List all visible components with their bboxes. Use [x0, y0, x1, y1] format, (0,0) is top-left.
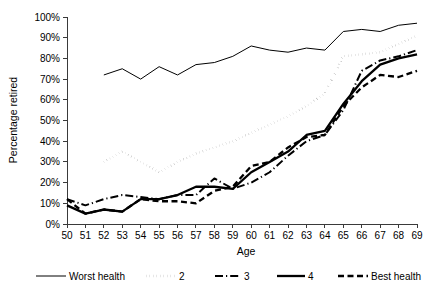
retirement-by-health-line-chart: 0%10%20%30%40%50%60%70%80%90%100% 505152…: [0, 0, 429, 296]
x-tick-label: 52: [98, 230, 110, 241]
legend-label-best-health: Best health: [371, 271, 421, 282]
x-tick-label: 62: [282, 230, 294, 241]
chart-canvas: 0%10%20%30%40%50%60%70%80%90%100% 505152…: [0, 0, 429, 296]
x-tick-label: 55: [154, 230, 166, 241]
x-tick-label: 53: [117, 230, 129, 241]
x-tick-label: 69: [411, 230, 423, 241]
x-tick-label: 57: [190, 230, 202, 241]
x-tick-label: 60: [246, 230, 258, 241]
y-tick-label: 40%: [40, 136, 60, 147]
x-tick-label: 64: [319, 230, 331, 241]
y-tick-label: 30%: [40, 156, 60, 167]
x-axis-title: Age: [237, 245, 256, 257]
y-tick-label: 10%: [40, 198, 60, 209]
y-tick-label: 20%: [40, 177, 60, 188]
y-tick-label: 0%: [46, 219, 61, 230]
legend-label-worst-health: Worst health: [69, 271, 125, 282]
x-tick-label: 58: [209, 230, 221, 241]
y-tick-label: 100%: [34, 12, 60, 23]
x-tick-label: 63: [301, 230, 313, 241]
legend-label-4: 4: [308, 271, 314, 282]
y-tick-label: 90%: [40, 32, 60, 43]
x-tick-label: 50: [61, 230, 73, 241]
y-tick-label: 60%: [40, 94, 60, 105]
y-tick-label: 70%: [40, 74, 60, 85]
legend-label-3: 3: [244, 271, 250, 282]
y-axis-title: Percentage retired: [7, 77, 19, 164]
x-tick-label: 51: [80, 230, 92, 241]
chart-background: [0, 0, 429, 296]
x-tick-label: 66: [356, 230, 368, 241]
x-tick-label: 61: [264, 230, 276, 241]
x-tick-label: 54: [135, 230, 147, 241]
x-tick-label: 68: [393, 230, 405, 241]
y-tick-label: 50%: [40, 115, 60, 126]
x-tick-label: 65: [338, 230, 350, 241]
x-tick-label: 59: [227, 230, 239, 241]
x-tick-label: 56: [172, 230, 184, 241]
x-tick-label: 67: [375, 230, 387, 241]
legend-label-2: 2: [179, 271, 185, 282]
y-tick-label: 80%: [40, 53, 60, 64]
